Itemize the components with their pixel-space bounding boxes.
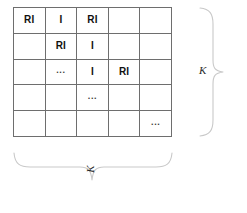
row-count-label: K	[199, 64, 206, 76]
matrix-cell-r3c4: RI	[109, 60, 141, 86]
matrix-cell-r2c1	[14, 34, 46, 60]
matrix-cell-r4c1	[14, 85, 46, 111]
matrix-cell-r5c5: ...	[140, 111, 172, 137]
matrix-cell-r5c4	[109, 111, 141, 137]
matrix-cell-r5c2	[46, 111, 78, 137]
figure-root: RI I RI RI I ... I RI ... ... K	[0, 0, 247, 213]
matrix-cell-r3c5	[140, 60, 172, 86]
matrix-cell-r2c3: I	[77, 34, 109, 60]
matrix-cell-r4c2	[46, 85, 78, 111]
matrix-cell-r2c2: RI	[46, 34, 78, 60]
matrix-cell-r4c5	[140, 85, 172, 111]
matrix-cell-r5c3	[77, 111, 109, 137]
matrix-cell-r1c3: RI	[77, 8, 109, 34]
matrix-cell-r2c5	[140, 34, 172, 60]
curly-brace-bottom-icon	[12, 150, 174, 202]
matrix-grid: RI I RI RI I ... I RI ... ...	[13, 7, 172, 137]
matrix-cell-r3c3: I	[77, 60, 109, 86]
matrix-cell-r2c4	[109, 34, 141, 60]
matrix-cell-r3c1	[14, 60, 46, 86]
matrix-cell-r4c3: ...	[77, 85, 109, 111]
matrix-cell-r5c1	[14, 111, 46, 137]
matrix-cell-r1c1: RI	[14, 8, 46, 34]
matrix-cell-r1c5	[140, 8, 172, 34]
matrix-cell-r4c4	[109, 85, 141, 111]
column-count-annotation	[12, 150, 174, 202]
matrix-cell-r3c2: ...	[46, 60, 78, 86]
matrix-cell-r1c4	[109, 8, 141, 34]
column-count-label: K	[84, 165, 96, 172]
matrix-cell-r1c2: I	[46, 8, 78, 34]
